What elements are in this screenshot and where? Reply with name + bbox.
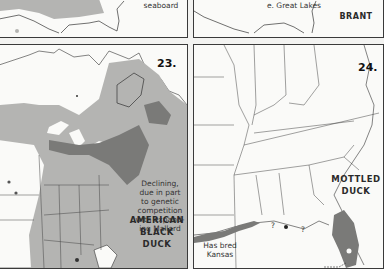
- range-note: seaboard: [141, 1, 181, 10]
- species-line: DUCK: [331, 185, 381, 197]
- note-line: Declining,: [131, 179, 188, 188]
- map-panel-top-right: e. Great Lakes BRANT: [193, 0, 384, 38]
- note-line: to genetic: [131, 197, 188, 206]
- question-mark: ?: [300, 225, 306, 234]
- species-line: MOTTLED: [331, 173, 381, 185]
- species-line: DUCK: [127, 238, 187, 250]
- note-line: Has bred: [200, 241, 240, 250]
- range-area: [0, 0, 104, 19]
- species-name: BRANT: [334, 12, 378, 21]
- note-line: Kansas: [200, 250, 240, 259]
- range-dark: [332, 210, 359, 268]
- map-number: 24.: [358, 61, 378, 74]
- range-note: e. Great Lakes: [259, 1, 329, 10]
- range-map-mottled-duck: [194, 45, 383, 268]
- range-dark: [194, 221, 260, 243]
- map-panel-top-left: seaboard: [0, 0, 188, 38]
- species-name: AMERICAN BLACK DUCK: [127, 214, 187, 250]
- map-panel-24: 24. ? ? MOTTLED DUCK Has bred Kansas: [193, 44, 384, 269]
- species-line: AMERICAN: [127, 214, 187, 226]
- note-line: due in part: [131, 188, 188, 197]
- map-panel-23: 23. Declining, due in part to genetic co…: [0, 44, 188, 269]
- species-name: MOTTLED DUCK: [331, 173, 381, 197]
- range-note: Has bred Kansas: [200, 241, 240, 259]
- species-line: BLACK: [127, 226, 187, 238]
- map-number: 23.: [157, 57, 177, 70]
- question-mark: ?: [270, 221, 276, 230]
